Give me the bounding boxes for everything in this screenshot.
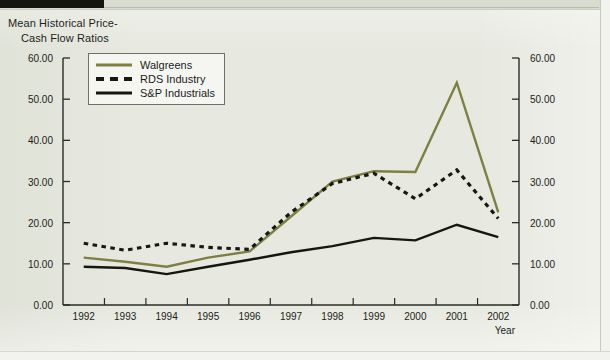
y-axis-label-left: 60.00 bbox=[28, 53, 53, 64]
x-axis-label-year: 1997 bbox=[280, 311, 303, 322]
x-axis-label-year: 2000 bbox=[404, 311, 427, 322]
legend-swatch-solid-olive-icon bbox=[96, 59, 132, 71]
y-axis-label-right: 30.00 bbox=[530, 177, 555, 188]
y-axis-label-left: 10.00 bbox=[28, 259, 53, 270]
x-axis-label-year: 1995 bbox=[197, 311, 220, 322]
x-axis-title: Year bbox=[495, 325, 516, 336]
x-axis-label-year: 2002 bbox=[487, 311, 510, 322]
x-axis-label-year: 1998 bbox=[321, 311, 344, 322]
x-axis-label-year: 1992 bbox=[73, 311, 96, 322]
y-axis-label-right: 20.00 bbox=[530, 218, 555, 229]
series-line-walgreens bbox=[84, 83, 499, 267]
legend-label-sp-industrials: S&P Industrials bbox=[140, 87, 215, 100]
legend-swatch-solid-black-icon bbox=[96, 87, 132, 99]
legend-swatch-dashed-black-icon bbox=[96, 73, 132, 85]
legend-item-rds-industry: RDS Industry bbox=[96, 72, 215, 86]
y-axis-label-right: 0.00 bbox=[530, 300, 550, 311]
legend-item-walgreens: Walgreens bbox=[96, 58, 215, 72]
legend-label-rds-industry: RDS Industry bbox=[140, 73, 205, 86]
y-axis-label-left: 40.00 bbox=[28, 135, 53, 146]
y-axis-label-right: 60.00 bbox=[530, 53, 555, 64]
y-axis-label-left: 30.00 bbox=[28, 177, 53, 188]
x-axis-label-year: 1994 bbox=[156, 311, 179, 322]
y-axis-label-right: 50.00 bbox=[530, 94, 555, 105]
y-axis-label-left: 50.00 bbox=[28, 94, 53, 105]
y-axis-label-right: 10.00 bbox=[530, 259, 555, 270]
series-group bbox=[84, 83, 499, 274]
x-axis-label-year: 2001 bbox=[446, 311, 469, 322]
legend-label-walgreens: Walgreens bbox=[140, 59, 192, 72]
series-line-s-p-industrials bbox=[84, 225, 499, 274]
x-axis-label-year: 1996 bbox=[238, 311, 261, 322]
y-axis-label-left: 20.00 bbox=[28, 218, 53, 229]
chart-legend: Walgreens RDS Industry S&P Industrials bbox=[88, 53, 225, 105]
chart-page: Mean Historical Price- Cash Flow Ratios … bbox=[0, 0, 610, 360]
x-axis-label-year: 1999 bbox=[363, 311, 386, 322]
y-axis-label-left: 0.00 bbox=[34, 300, 54, 311]
legend-item-sp-industrials: S&P Industrials bbox=[96, 86, 215, 100]
x-axis-label-year: 1993 bbox=[114, 311, 137, 322]
series-line-rds-industry bbox=[84, 170, 499, 250]
y-axis-label-right: 40.00 bbox=[530, 135, 555, 146]
